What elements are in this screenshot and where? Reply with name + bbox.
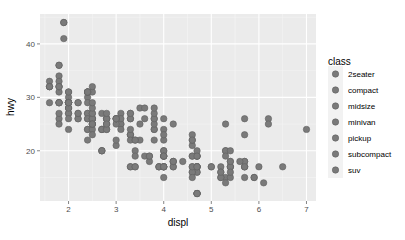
legend-label: subcompact <box>348 150 392 159</box>
data-point <box>89 99 95 105</box>
data-point <box>265 121 271 127</box>
data-point <box>151 105 157 111</box>
data-point <box>189 137 195 143</box>
data-point <box>170 121 176 127</box>
legend-point-icon <box>332 151 338 157</box>
data-point <box>127 110 133 116</box>
data-point <box>56 62 62 68</box>
data-point <box>146 153 152 159</box>
y-tick-label: 40 <box>26 40 35 49</box>
legend-point-icon <box>332 135 338 141</box>
data-point <box>56 110 62 116</box>
legend-label: midsize <box>348 102 376 111</box>
data-point <box>237 158 243 164</box>
data-point <box>65 99 71 105</box>
data-point <box>61 19 67 25</box>
data-point <box>241 116 247 122</box>
x-tick-label: 5 <box>209 205 214 214</box>
data-point <box>194 190 200 196</box>
scatter-chart: 234567 203040 displ hwy class 2seatercom… <box>0 0 405 240</box>
data-point <box>194 153 200 159</box>
data-point <box>113 116 119 122</box>
plot-panel <box>40 14 316 201</box>
data-point <box>161 153 167 159</box>
legend-point-icon <box>332 71 338 77</box>
data-point <box>218 169 224 175</box>
data-point <box>127 126 133 132</box>
data-point <box>227 148 233 154</box>
data-point <box>56 83 62 89</box>
data-point <box>161 132 167 138</box>
data-point <box>161 174 167 180</box>
data-point <box>46 83 52 89</box>
data-point <box>151 137 157 143</box>
data-point <box>241 164 247 170</box>
data-point <box>303 126 309 132</box>
data-point <box>256 164 262 170</box>
data-point <box>241 132 247 138</box>
legend-point-icon <box>332 103 338 109</box>
data-point <box>141 116 147 122</box>
data-point <box>89 132 95 138</box>
data-point <box>84 137 90 143</box>
data-point <box>99 148 105 154</box>
data-point <box>56 121 62 127</box>
data-point <box>75 99 81 105</box>
data-point <box>65 116 71 122</box>
y-tick-label: 20 <box>26 147 35 156</box>
legend-label: pickup <box>348 134 372 143</box>
data-point <box>132 137 138 143</box>
data-point <box>222 121 228 127</box>
data-point <box>103 121 109 127</box>
legend-title: class <box>328 56 351 67</box>
x-tick-label: 4 <box>161 205 166 214</box>
data-point <box>84 89 90 95</box>
x-axis-title: displ <box>168 217 189 228</box>
data-point <box>170 158 176 164</box>
legend-point-icon <box>332 87 338 93</box>
data-point <box>227 169 233 175</box>
legend-point-icon <box>332 167 338 173</box>
data-point <box>189 174 195 180</box>
data-point <box>222 153 228 159</box>
x-axis: 234567 <box>66 201 309 214</box>
data-point <box>89 121 95 127</box>
data-point <box>75 110 81 116</box>
data-point <box>137 121 143 127</box>
y-tick-label: 30 <box>26 93 35 102</box>
legend-label: suv <box>348 166 360 175</box>
legend-point-icon <box>332 119 338 125</box>
data-point <box>251 174 257 180</box>
data-point <box>141 105 147 111</box>
legend: class 2seatercompactmidsizeminivanpickup… <box>328 56 392 178</box>
data-point <box>208 164 214 170</box>
data-point <box>132 153 138 159</box>
data-point <box>56 99 62 105</box>
data-point <box>118 126 124 132</box>
data-point <box>89 83 95 89</box>
data-point <box>279 164 285 170</box>
x-tick-label: 6 <box>257 205 262 214</box>
data-point <box>161 116 167 122</box>
data-point <box>161 164 167 170</box>
data-point <box>103 110 109 116</box>
y-axis: 203040 <box>26 40 40 156</box>
x-tick-label: 3 <box>114 205 119 214</box>
legend-label: compact <box>348 86 379 95</box>
data-point <box>132 164 138 170</box>
x-tick-label: 2 <box>66 205 71 214</box>
data-point <box>241 174 247 180</box>
legend-label: minivan <box>348 118 376 127</box>
data-point <box>180 158 186 164</box>
data-point <box>260 180 266 186</box>
data-point <box>65 89 71 95</box>
data-point <box>113 137 119 143</box>
data-point <box>46 99 52 105</box>
data-point <box>61 35 67 41</box>
data-point <box>65 126 71 132</box>
x-tick-label: 7 <box>304 205 309 214</box>
y-axis-title: hwy <box>5 98 16 116</box>
data-point <box>227 158 233 164</box>
data-point <box>222 180 228 186</box>
legend-label: 2seater <box>348 70 375 79</box>
